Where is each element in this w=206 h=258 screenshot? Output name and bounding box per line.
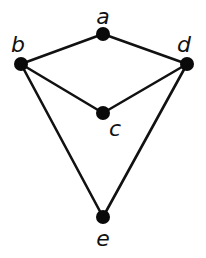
node-label-b: b [11, 32, 25, 57]
edge-b-e [21, 64, 103, 217]
edges-group [21, 34, 187, 217]
graph-diagram: abdce [0, 0, 206, 258]
node-label-e: e [96, 226, 110, 251]
edge-a-d [103, 34, 187, 64]
node-label-d: d [177, 32, 192, 57]
node-d [180, 57, 194, 71]
node-label-c: c [109, 116, 121, 141]
node-a [96, 27, 110, 41]
node-e [96, 210, 110, 224]
edge-a-b [21, 34, 103, 64]
node-b [14, 57, 28, 71]
node-label-a: a [96, 4, 109, 29]
node-c [96, 106, 110, 120]
